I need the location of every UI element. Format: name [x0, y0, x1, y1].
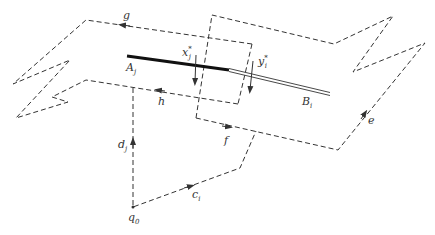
- segment-a: [127, 56, 229, 70]
- segment-b-1: [229, 69, 330, 93]
- label-g: g: [123, 9, 130, 22]
- arrow-h: [158, 90, 165, 91]
- label-b: Bi: [301, 95, 312, 110]
- label-a: Aj: [125, 61, 137, 76]
- label-c: ci: [192, 188, 200, 203]
- arrow-c: [184, 186, 191, 188]
- label-h: h: [158, 95, 165, 108]
- arrow-f: [222, 126, 229, 127]
- arrow-x-star: [195, 55, 196, 82]
- label-x-star: x*j: [182, 45, 192, 61]
- diagram-canvas: g h f e dj ci q0 Aj Bi x*j y*i: [0, 0, 435, 235]
- label-d: dj: [118, 138, 128, 153]
- segment-b-2: [229, 72, 330, 96]
- label-y-star: y*i: [257, 54, 268, 70]
- right-path: [196, 15, 425, 150]
- arrow-y-star: [250, 61, 253, 90]
- label-f: f: [223, 134, 230, 147]
- label-q0: q0: [128, 211, 140, 226]
- label-e: e: [368, 114, 375, 127]
- q0-point: [132, 206, 135, 209]
